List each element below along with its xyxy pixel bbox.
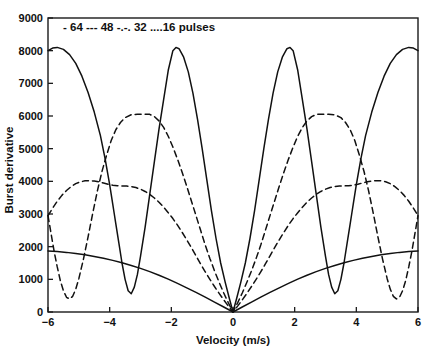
chart-legend: - 64 --- 48 -.-. 32 ....16 pulses: [63, 21, 215, 33]
y-tick-label: 0: [37, 306, 43, 318]
y-tick-label: 4000: [19, 175, 43, 187]
x-tick-label: −4: [103, 316, 116, 328]
y-tick-label: 8000: [19, 45, 43, 57]
chart-background: [0, 0, 433, 352]
x-axis-title: Velocity (m/s): [196, 334, 270, 346]
y-tick-label: 3000: [19, 208, 43, 220]
y-tick-label: 7000: [19, 77, 43, 89]
x-tick-label: 2: [292, 316, 298, 328]
y-axis-title: Burst derivative: [3, 127, 15, 214]
y-tick-label: 2000: [19, 241, 43, 253]
burst-derivative-chart: −6−4−20246 01000200030004000500060007000…: [0, 0, 433, 352]
x-tick-label: 4: [353, 316, 360, 328]
x-tick-label: −6: [42, 316, 55, 328]
y-tick-label: 5000: [19, 143, 43, 155]
legend-text: - 64 --- 48 -.-. 32 ....16 pulses: [63, 21, 215, 33]
y-tick-label: 1000: [19, 273, 43, 285]
x-tick-label: 0: [230, 316, 236, 328]
figure-container: −6−4−20246 01000200030004000500060007000…: [0, 0, 433, 352]
x-tick-label: 6: [415, 316, 421, 328]
y-tick-label: 6000: [19, 110, 43, 122]
x-tick-label: −2: [165, 316, 178, 328]
y-tick-label: 9000: [19, 12, 43, 24]
